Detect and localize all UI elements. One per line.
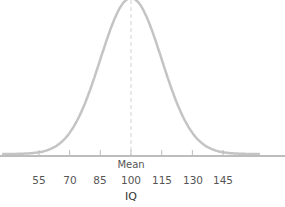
- tick-label-55: 55: [32, 174, 45, 186]
- tick-label-115: 115: [152, 174, 172, 186]
- tick-label-100: 100: [121, 174, 141, 186]
- tick-label-70: 70: [63, 174, 76, 186]
- tick-label-130: 130: [183, 174, 203, 186]
- mean-label: Mean: [117, 159, 144, 170]
- tick-label-85: 85: [93, 174, 106, 186]
- tick-label-145: 145: [213, 174, 233, 186]
- x-axis-label: IQ: [125, 190, 137, 203]
